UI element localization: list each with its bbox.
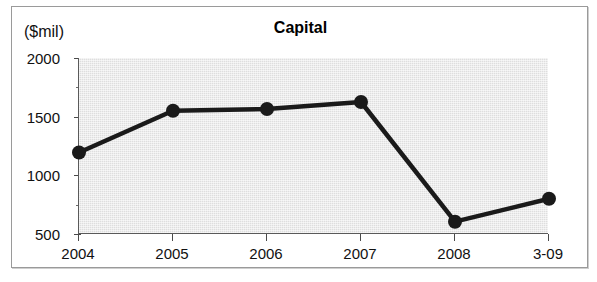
x-axis-tick-label: 3-09 — [533, 245, 563, 262]
x-axis-labels: 200420052006200720083-09 — [12, 245, 589, 267]
y-axis-tick-label: 2000 — [27, 50, 60, 67]
x-axis-tick-label: 2004 — [61, 245, 94, 262]
data-point-marker — [260, 102, 274, 116]
x-axis-tick-label: 2008 — [437, 245, 470, 262]
data-point-marker — [72, 145, 86, 159]
capital-markers — [72, 95, 556, 229]
x-axis-ticks — [78, 234, 550, 242]
plot-area — [78, 58, 548, 234]
x-axis-tick — [172, 234, 173, 241]
x-axis-tick — [266, 234, 267, 241]
y-axis-tick-label: 1000 — [27, 167, 60, 184]
y-axis-tick-label: 1500 — [27, 108, 60, 125]
x-axis-tick-label: 2005 — [155, 245, 188, 262]
y-axis-labels: 500100015002000 — [12, 58, 74, 234]
chart-title: Capital — [12, 19, 589, 37]
y-axis-tick-label: 500 — [35, 226, 60, 243]
x-axis-tick — [360, 234, 361, 241]
data-point-marker — [542, 192, 556, 206]
line-series-svg — [79, 58, 549, 234]
x-axis-tick-label: 2007 — [343, 245, 376, 262]
chart-frame: ($mil) Capital 500100015002000 200420052… — [11, 6, 588, 268]
data-point-marker — [448, 215, 462, 229]
capital-line — [79, 102, 549, 222]
data-point-marker — [354, 95, 368, 109]
x-axis-tick-label: 2006 — [249, 245, 282, 262]
x-axis-tick — [78, 234, 79, 241]
x-axis-tick — [548, 234, 549, 241]
data-point-marker — [166, 104, 180, 118]
x-axis-tick — [454, 234, 455, 241]
